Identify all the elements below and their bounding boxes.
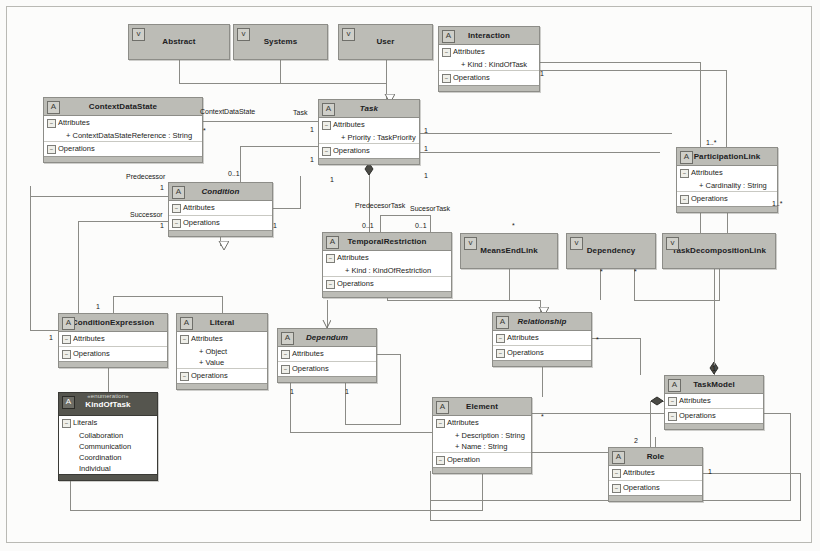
- expand-icon[interactable]: −: [281, 350, 290, 359]
- compartment-operations-interaction[interactable]: −Operations: [439, 70, 539, 85]
- expand-icon[interactable]: −: [62, 419, 71, 428]
- compartment-attributes-conditionexpression[interactable]: −Attributes: [59, 332, 167, 346]
- uml-class-relationship[interactable]: ARelationship−Attributes−Operations: [492, 312, 592, 367]
- compartment-attributes-relationship[interactable]: −Attributes: [493, 331, 591, 345]
- compartment-attributes-interaction[interactable]: −Attributes: [439, 45, 539, 59]
- compartment-attributes-role[interactable]: −Attributes: [609, 466, 702, 480]
- literal-row[interactable]: Individual: [59, 463, 157, 474]
- attribute-row[interactable]: + Object: [177, 346, 267, 357]
- uml-class-kindoftask[interactable]: A«enumeration»KindOfTask−LiteralsCollabo…: [58, 392, 158, 481]
- uml-class-task[interactable]: ATask−Attributes+ Priority : TaskPriorit…: [318, 99, 420, 165]
- uml-class-element[interactable]: AElement−Attributes+ Description : Strin…: [432, 397, 532, 474]
- attribute-row[interactable]: + Value: [177, 357, 267, 368]
- collapse-icon[interactable]: v: [132, 28, 145, 41]
- uml-class-temporalrestriction[interactable]: ATemporalRestriction−Attributes+ Kind : …: [322, 232, 452, 298]
- expand-icon[interactable]: −: [326, 254, 335, 263]
- class-icon[interactable]: A: [612, 451, 625, 464]
- compartment-attributes-participationlink[interactable]: −Attributes: [677, 166, 777, 180]
- literal-row[interactable]: Communication: [59, 441, 157, 452]
- class-icon[interactable]: A: [47, 101, 60, 114]
- class-icon[interactable]: A: [322, 103, 335, 116]
- class-icon[interactable]: A: [62, 396, 75, 409]
- expand-icon[interactable]: −: [668, 412, 677, 421]
- expand-icon[interactable]: −: [180, 372, 189, 381]
- class-icon[interactable]: A: [436, 401, 449, 414]
- uml-class-user[interactable]: vUser: [338, 24, 433, 60]
- attribute-row[interactable]: + ContextDataStateReference : String: [44, 130, 202, 141]
- compartment-operations-dependum[interactable]: −Operations: [278, 361, 376, 376]
- collapse-icon[interactable]: v: [237, 28, 250, 41]
- compartment-attributes-condition[interactable]: −Attributes: [169, 201, 272, 215]
- class-icon[interactable]: A: [326, 236, 339, 249]
- expand-icon[interactable]: −: [172, 219, 181, 228]
- compartment-attributes-dependum[interactable]: −Attributes: [278, 347, 376, 361]
- class-icon[interactable]: A: [172, 186, 185, 199]
- compartment-attributes-task[interactable]: −Attributes: [319, 118, 419, 132]
- compartment-operation-element[interactable]: −Operation: [433, 452, 531, 467]
- compartment-operations-role[interactable]: −Operations: [609, 480, 702, 495]
- compartment-attributes-element[interactable]: −Attributes: [433, 416, 531, 430]
- class-icon[interactable]: A: [62, 317, 75, 330]
- compartment-operations-relationship[interactable]: −Operations: [493, 345, 591, 360]
- uml-class-contextdatastate[interactable]: AContextDataState−Attributes+ ContextDat…: [43, 97, 203, 163]
- compartment-attributes-temporalrestriction[interactable]: −Attributes: [323, 251, 451, 265]
- uml-class-interaction[interactable]: AInteraction−Attributes+ Kind : KindOfTa…: [438, 26, 540, 92]
- uml-class-role[interactable]: ARole−Attributes−Operations: [608, 447, 703, 502]
- attribute-row[interactable]: + Kind : KindOfRestriction: [323, 265, 451, 276]
- expand-icon[interactable]: −: [496, 334, 505, 343]
- compartment-operations-task[interactable]: −Operations: [319, 143, 419, 158]
- compartment-attributes-literal[interactable]: −Attributes: [177, 332, 267, 346]
- uml-class-taskmodel[interactable]: ATaskModel−Attributes−Operations: [664, 375, 764, 430]
- class-icon[interactable]: A: [180, 317, 193, 330]
- collapse-icon[interactable]: v: [464, 237, 477, 250]
- compartment-operations-taskmodel[interactable]: −Operations: [665, 408, 763, 423]
- expand-icon[interactable]: −: [612, 484, 621, 493]
- expand-icon[interactable]: −: [281, 365, 290, 374]
- uml-class-systems[interactable]: vSystems: [233, 24, 328, 60]
- expand-icon[interactable]: −: [680, 169, 689, 178]
- expand-icon[interactable]: −: [442, 48, 451, 57]
- attribute-row[interactable]: + Cardinality : String: [677, 180, 777, 191]
- compartment-attributes-contextdatastate[interactable]: −Attributes: [44, 116, 202, 130]
- literal-row[interactable]: Collaboration: [59, 430, 157, 441]
- compartment-operations-participationlink[interactable]: −Operations: [677, 191, 777, 206]
- uml-class-condition[interactable]: ACondition−Attributes−Operations: [168, 182, 273, 237]
- expand-icon[interactable]: −: [62, 350, 71, 359]
- class-icon[interactable]: A: [496, 316, 509, 329]
- uml-class-meansendlink[interactable]: vMeansEndLink: [460, 233, 558, 269]
- compartment-literals-kindoftask[interactable]: −Literals: [59, 416, 157, 430]
- attribute-row[interactable]: + Priority : TaskPriority: [319, 132, 419, 143]
- attribute-row[interactable]: + Name : String: [433, 441, 531, 452]
- uml-class-conditionexpression[interactable]: AConditionExpression−Attributes−Operatio…: [58, 313, 168, 368]
- collapse-icon[interactable]: v: [342, 28, 355, 41]
- uml-class-dependum[interactable]: ADependum−Attributes−Operations: [277, 328, 377, 383]
- expand-icon[interactable]: −: [326, 280, 335, 289]
- uml-class-participationlink[interactable]: AParticipationLink−Attributes+ Cardinali…: [676, 147, 778, 213]
- expand-icon[interactable]: −: [612, 469, 621, 478]
- compartment-operations-temporalrestriction[interactable]: −Operations: [323, 276, 451, 291]
- compartment-operations-condition[interactable]: −Operations: [169, 215, 272, 230]
- expand-icon[interactable]: −: [172, 204, 181, 213]
- expand-icon[interactable]: −: [442, 74, 451, 83]
- compartment-operations-conditionexpression[interactable]: −Operations: [59, 346, 167, 361]
- literal-row[interactable]: Coordination: [59, 452, 157, 463]
- expand-icon[interactable]: −: [180, 335, 189, 344]
- collapse-icon[interactable]: v: [666, 237, 679, 250]
- class-icon[interactable]: A: [668, 379, 681, 392]
- compartment-operations-literal[interactable]: −Operations: [177, 368, 267, 383]
- expand-icon[interactable]: −: [680, 195, 689, 204]
- collapse-icon[interactable]: v: [570, 237, 583, 250]
- expand-icon[interactable]: −: [322, 147, 331, 156]
- class-icon[interactable]: A: [442, 30, 455, 43]
- uml-class-literal[interactable]: ALiteral−Attributes+ Object+ Value−Opera…: [176, 313, 268, 390]
- expand-icon[interactable]: −: [436, 419, 445, 428]
- expand-icon[interactable]: −: [496, 349, 505, 358]
- expand-icon[interactable]: −: [47, 119, 56, 128]
- attribute-row[interactable]: + Description : String: [433, 430, 531, 441]
- class-icon[interactable]: A: [281, 332, 294, 345]
- expand-icon[interactable]: −: [436, 456, 445, 465]
- expand-icon[interactable]: −: [668, 397, 677, 406]
- compartment-attributes-taskmodel[interactable]: −Attributes: [665, 394, 763, 408]
- expand-icon[interactable]: −: [322, 121, 331, 130]
- uml-class-abstract[interactable]: vAbstract: [128, 24, 230, 60]
